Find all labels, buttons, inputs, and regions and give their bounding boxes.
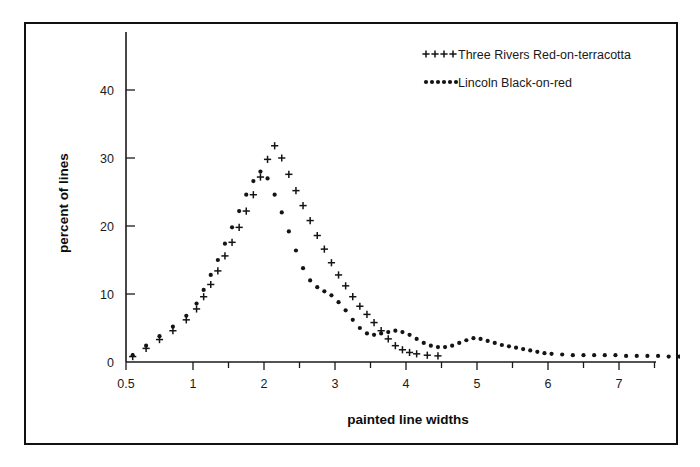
x-tick-label: 7 <box>616 377 623 391</box>
legend-item-2[interactable]: Lincoln Black-on-red <box>424 76 572 90</box>
series-2-markers <box>131 170 680 359</box>
x-tick-label: 4 <box>403 377 410 391</box>
legend-label: Lincoln Black-on-red <box>458 76 572 90</box>
x-axis-ticks: 0.512345678 <box>117 362 680 391</box>
axes <box>126 32 656 362</box>
x-tick-label: 5 <box>474 377 481 391</box>
x-tick-label: 2 <box>261 377 268 391</box>
y-tick-label: 10 <box>100 288 114 302</box>
x-axis-title: painted line widths <box>347 412 469 427</box>
y-tick-label: 40 <box>100 84 114 98</box>
y-tick-label: 0 <box>107 356 114 370</box>
x-tick-label: 3 <box>332 377 339 391</box>
scatter-chart: 0102030400.512345678painted line widthsp… <box>26 24 680 447</box>
x-tick-label: 6 <box>545 377 552 391</box>
x-tick-label: 0.5 <box>117 377 134 391</box>
y-tick-label: 20 <box>100 220 114 234</box>
legend-label: Three Rivers Red-on-terracotta <box>458 48 631 62</box>
legend-item-1[interactable]: Three Rivers Red-on-terracotta <box>422 48 631 62</box>
y-tick-label: 30 <box>100 152 114 166</box>
chart-area: 0102030400.512345678painted line widthsp… <box>26 24 680 447</box>
y-axis-title: percent of lines <box>56 153 71 253</box>
y-axis-ticks: 010203040 <box>100 84 135 370</box>
figure-border: 0102030400.512345678painted line widthsp… <box>24 22 678 445</box>
series-1-markers <box>129 142 441 360</box>
x-tick-label: 1 <box>190 377 197 391</box>
legend: Three Rivers Red-on-terracottaLincoln Bl… <box>422 48 631 90</box>
